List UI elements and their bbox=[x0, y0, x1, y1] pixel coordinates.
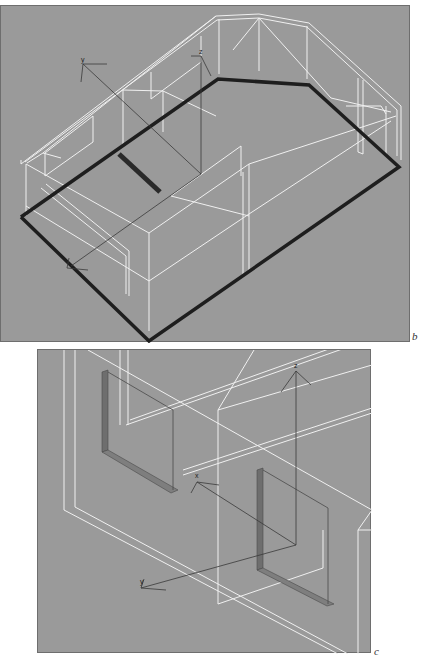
axis-label-y-b: y bbox=[81, 56, 85, 64]
panel-c-viewport: z x y bbox=[37, 349, 371, 653]
selected-wall-bar bbox=[119, 154, 160, 192]
white-wireframe-edges bbox=[64, 350, 372, 654]
axis-label-z-c: z bbox=[294, 362, 298, 369]
local-axes-c bbox=[141, 371, 311, 590]
axis-label-x-c: x bbox=[195, 472, 199, 479]
panel-caption-c: c bbox=[374, 645, 379, 657]
panel-caption-b: b bbox=[412, 330, 418, 342]
wireframe-walls-c: z x y bbox=[38, 350, 372, 654]
axis-label-z-b: z bbox=[199, 48, 203, 55]
axis-label-y-c: y bbox=[140, 578, 144, 586]
local-axes-b bbox=[67, 56, 211, 270]
white-wireframe-edges bbox=[21, 14, 401, 331]
wireframe-house-b: y z bbox=[1, 6, 411, 343]
panel-b-viewport: y z bbox=[0, 5, 410, 342]
